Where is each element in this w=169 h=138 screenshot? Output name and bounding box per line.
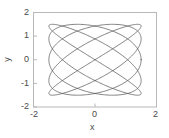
y-tick-label-2: 2 <box>24 8 29 17</box>
figure-background <box>0 0 169 138</box>
plot-canvas <box>0 0 169 138</box>
x-tick-label-0: 0 <box>92 110 97 119</box>
x-axis-title: x <box>90 123 95 132</box>
y-axis-title: y <box>3 57 12 62</box>
y-tick-label-0: 0 <box>24 55 29 64</box>
y-tick-label--2: -2 <box>21 102 29 111</box>
x-tick-label-2: 2 <box>153 110 158 119</box>
chart-figure: 2 1 0 -1 -2 -2 0 2 y x <box>0 0 169 138</box>
y-tick-label--1: -1 <box>21 79 29 88</box>
y-tick-label-1: 1 <box>24 31 29 40</box>
x-tick-label--2: -2 <box>30 110 38 119</box>
